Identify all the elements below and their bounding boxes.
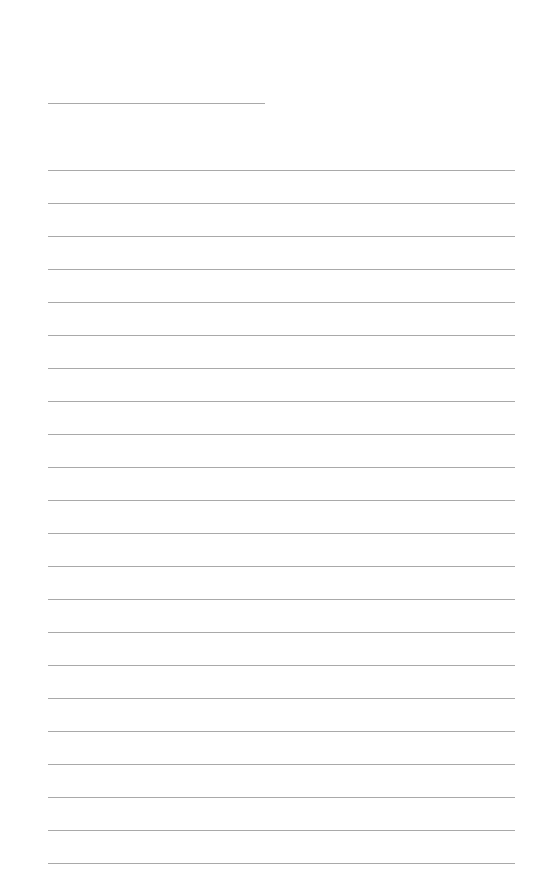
ruled-line[interactable] [48, 236, 515, 237]
ruled-line[interactable] [48, 401, 515, 402]
ruled-line[interactable] [48, 830, 515, 831]
ruled-line[interactable] [48, 797, 515, 798]
ruled-line[interactable] [48, 203, 515, 204]
ruled-line[interactable] [48, 170, 515, 171]
ruled-line[interactable] [48, 863, 515, 864]
ruled-line[interactable] [48, 533, 515, 534]
ruled-line[interactable] [48, 764, 515, 765]
ruled-line[interactable] [48, 335, 515, 336]
ruled-line[interactable] [48, 566, 515, 567]
ruled-line[interactable] [48, 698, 515, 699]
ruled-line[interactable] [48, 269, 515, 270]
ruled-line[interactable] [48, 302, 515, 303]
ruled-line[interactable] [48, 599, 515, 600]
ruled-line[interactable] [48, 731, 515, 732]
ruled-line[interactable] [48, 368, 515, 369]
ruled-line[interactable] [48, 665, 515, 666]
ruled-line[interactable] [48, 467, 515, 468]
header-write-line[interactable] [48, 103, 265, 104]
ruled-line[interactable] [48, 434, 515, 435]
ruled-line[interactable] [48, 500, 515, 501]
ruled-line[interactable] [48, 632, 515, 633]
